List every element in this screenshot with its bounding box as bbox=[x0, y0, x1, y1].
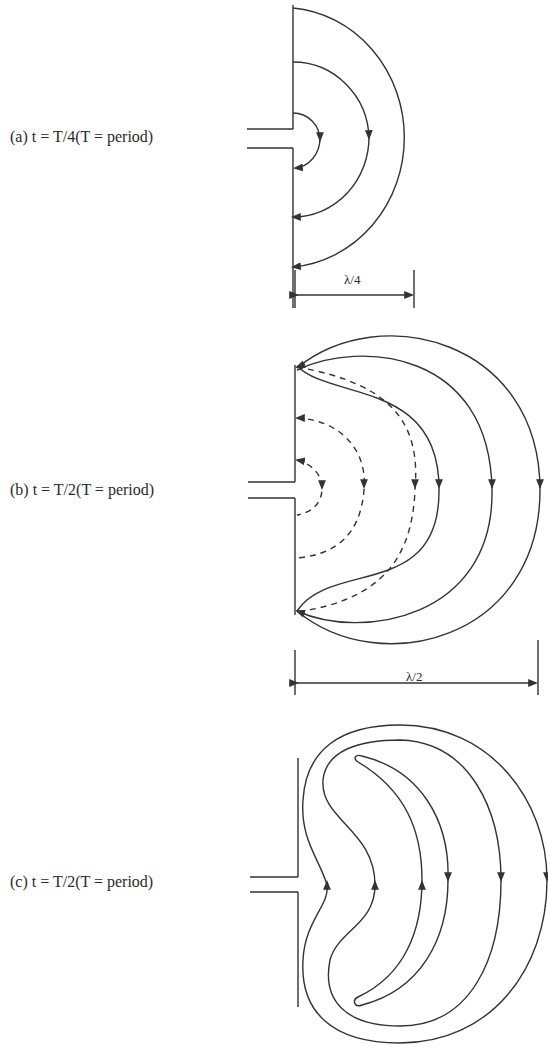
antenna-field-diagram bbox=[0, 0, 548, 1048]
panel-c-diagram bbox=[250, 725, 547, 1043]
panel-b-diagram bbox=[248, 336, 540, 695]
panel-a-diagram bbox=[247, 5, 414, 308]
